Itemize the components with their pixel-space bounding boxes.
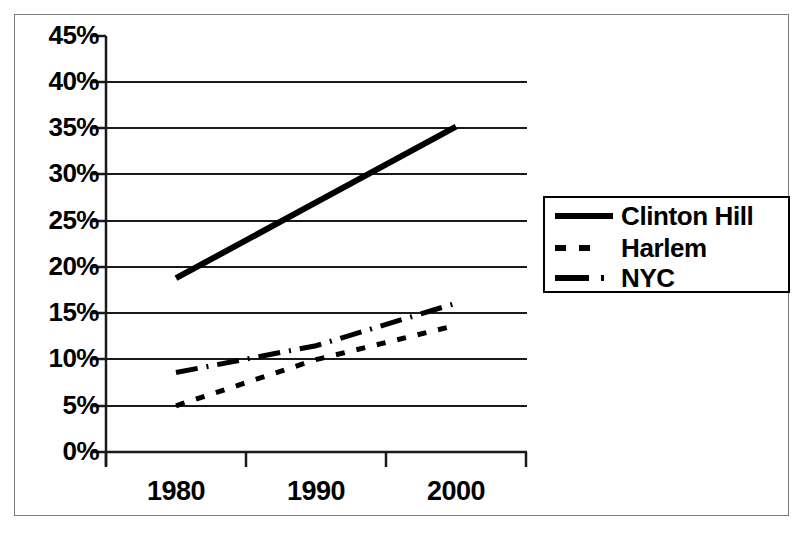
legend-label: Clinton Hill	[621, 203, 753, 229]
line-chart: 45% 40% 35% 30% 25% 20% 15% 10% 5% 0% 19…	[0, 0, 800, 536]
y-tick-label: 35%	[3, 114, 99, 140]
legend-swatch-dashdot-icon	[553, 266, 615, 290]
legend-item-harlem: Harlem	[545, 232, 788, 264]
y-tick-label: 45%	[3, 22, 99, 48]
y-tick-label: 15%	[3, 299, 99, 325]
legend-label: Harlem	[621, 235, 707, 261]
x-tick-label: 1980	[116, 478, 236, 505]
y-tick-label: 5%	[3, 392, 99, 418]
chart-legend: Clinton Hill Harlem NYC	[543, 196, 790, 293]
legend-item-clinton-hill: Clinton Hill	[545, 200, 788, 232]
y-tick-label: 20%	[3, 253, 99, 279]
y-tick-label: 10%	[3, 345, 99, 371]
legend-swatch-dotted-icon	[553, 236, 615, 260]
legend-swatch-solid-icon	[553, 204, 615, 228]
legend-label: NYC	[621, 265, 675, 291]
x-tick-label: 1990	[256, 478, 376, 505]
y-tick-label: 0%	[3, 438, 99, 464]
x-tick-label: 2000	[396, 478, 516, 505]
y-axis-labels: 45% 40% 35% 30% 25% 20% 15% 10% 5% 0%	[0, 0, 99, 536]
y-tick-label: 40%	[3, 68, 99, 94]
y-tick-label: 30%	[3, 160, 99, 186]
y-tick-label: 25%	[3, 207, 99, 233]
legend-item-nyc: NYC	[545, 262, 788, 294]
